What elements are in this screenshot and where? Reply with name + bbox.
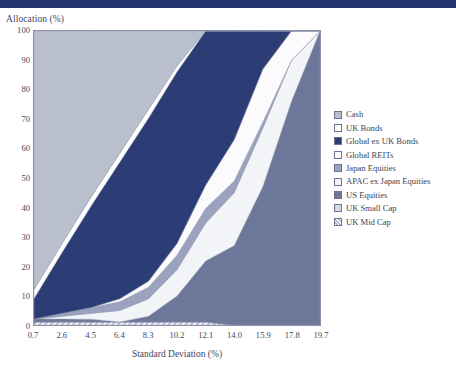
legend-label: UK Small Cap — [346, 204, 397, 213]
legend-swatch-icon — [334, 218, 342, 226]
legend-item[interactable]: UK Bonds — [334, 121, 456, 134]
y-axis-tick: 0 — [4, 322, 30, 331]
legend-label: Global ex UK Bonds — [346, 137, 418, 146]
top-accent-bar — [0, 0, 456, 8]
x-axis-title: Standard Deviation (%) — [33, 349, 321, 359]
legend-label: APAC ex Japan Equities — [346, 177, 430, 186]
y-axis-tick: 40 — [4, 204, 30, 213]
y-axis-title: Allocation (%) — [6, 14, 64, 24]
chart-legend: CashUK BondsGlobal ex UK BondsGlobal REI… — [334, 108, 456, 229]
legend-label: Global REITs — [346, 151, 393, 160]
x-axis-tick: 19.7 — [301, 331, 341, 340]
legend-label: Japan Equities — [346, 164, 396, 173]
legend-item[interactable]: Cash — [334, 108, 456, 121]
legend-item[interactable]: APAC ex Japan Equities — [334, 175, 456, 188]
legend-swatch-icon — [334, 178, 342, 186]
legend-label: UK Bonds — [346, 124, 383, 133]
legend-label: US Equities — [346, 191, 387, 200]
legend-label: UK Mid Cap — [346, 218, 391, 227]
legend-item[interactable]: US Equities — [334, 188, 456, 201]
legend-label: Cash — [346, 110, 363, 119]
y-axis-tick: 20 — [4, 263, 30, 272]
y-axis-tick-labels: 1009080706050403020100 — [0, 30, 30, 326]
legend-item[interactable]: Global REITs — [334, 148, 456, 161]
legend-item[interactable]: UK Small Cap — [334, 202, 456, 215]
legend-swatch-icon — [334, 124, 342, 132]
legend-swatch-icon — [334, 111, 342, 119]
legend-swatch-icon — [334, 164, 342, 172]
legend-item[interactable]: UK Mid Cap — [334, 215, 456, 228]
y-axis-tick: 30 — [4, 233, 30, 242]
legend-swatch-icon — [334, 191, 342, 199]
y-axis-tick: 70 — [4, 115, 30, 124]
y-axis-tick: 50 — [4, 174, 30, 183]
y-axis-tick: 80 — [4, 85, 30, 94]
chart-plot-area — [33, 30, 321, 326]
legend-item[interactable]: Japan Equities — [334, 162, 456, 175]
y-axis-tick: 90 — [4, 56, 30, 65]
legend-item[interactable]: Global ex UK Bonds — [334, 135, 456, 148]
legend-swatch-icon — [334, 204, 342, 212]
legend-swatch-icon — [334, 137, 342, 145]
stacked-area-chart — [34, 31, 320, 325]
legend-swatch-icon — [334, 151, 342, 159]
y-axis-tick: 100 — [4, 26, 30, 35]
x-axis-tick-labels: 0.72.64.56.48.310.212.114.015.917.819.7 — [33, 331, 321, 345]
y-axis-tick: 10 — [4, 292, 30, 301]
y-axis-tick: 60 — [4, 144, 30, 153]
